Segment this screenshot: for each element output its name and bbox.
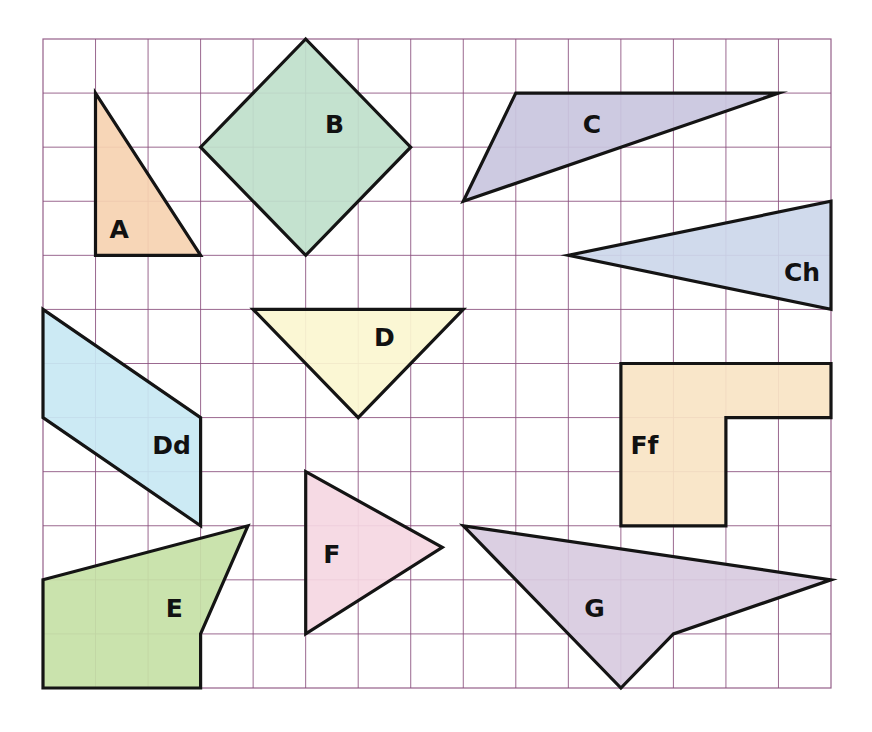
shape-label-dd: Dd: [152, 431, 191, 460]
shape-label-e: E: [166, 594, 183, 623]
shape-label-a: A: [110, 215, 130, 244]
shape-label-c: C: [583, 110, 601, 139]
shape-label-f: F: [323, 540, 340, 569]
shape-label-ch: Ch: [784, 258, 820, 287]
shape-label-d: D: [374, 323, 395, 352]
shape-label-b: B: [325, 110, 344, 139]
shape-label-ff: Ff: [631, 431, 660, 460]
shape-label-g: G: [584, 594, 605, 623]
shapes-on-grid-figure: ABCChDDdFfEFG: [0, 0, 872, 732]
